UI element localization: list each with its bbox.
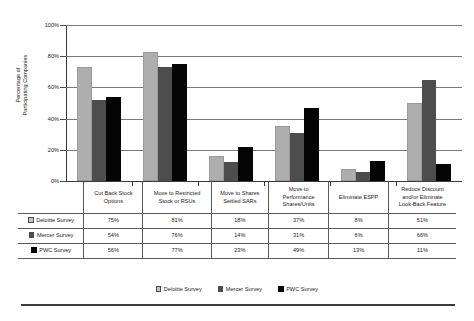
legend-item: PWC Survey <box>278 285 318 293</box>
chart-legend: Deloitte SurveyMercer SurveyPWC Survey <box>0 285 474 293</box>
legend-swatch-icon <box>278 286 284 292</box>
table-cell-value: 56% <box>84 244 143 259</box>
bar <box>304 108 319 181</box>
table-column-header: Move to SharesSettled SARs <box>211 182 268 214</box>
legend-swatch-deloitte-icon <box>28 217 34 223</box>
table-cell-value: 66% <box>388 229 456 244</box>
y-tick-label: 40% <box>31 116 59 122</box>
bar <box>370 161 385 181</box>
table-row-label: PWC Survey <box>18 244 84 259</box>
table-column-header: Eliminate ESPP <box>329 182 389 214</box>
bar <box>238 147 253 181</box>
table-cell-value: 18% <box>211 214 268 229</box>
bar <box>275 126 290 181</box>
series-name: Mercer Survey <box>37 232 73 238</box>
table-cell-value: 77% <box>143 244 211 259</box>
legend-swatch-icon <box>156 286 162 292</box>
table-cell-value: 31% <box>268 229 328 244</box>
table-cell-value: 49% <box>268 244 328 259</box>
series-name: PWC Survey <box>39 247 71 253</box>
y-tick-label: 60% <box>31 84 59 90</box>
table-corner-cell <box>18 182 84 214</box>
legend-item: Deloitte Survey <box>156 285 202 293</box>
y-tick-label: 80% <box>31 53 59 59</box>
bar <box>407 103 422 181</box>
bar <box>158 67 173 181</box>
y-tick-label: 100% <box>31 22 59 28</box>
bar <box>143 52 158 181</box>
bar-group <box>330 25 396 181</box>
bar <box>341 169 356 181</box>
table-column-header: Cut Back StockOptions <box>84 182 143 214</box>
y-tick-label: 20% <box>31 147 59 153</box>
legend-swatch-icon <box>218 286 224 292</box>
table-column-header: Move toPerformanceShares/Units <box>268 182 328 214</box>
bar <box>356 172 371 181</box>
y-axis-title-line1: Percentage of <box>15 30 22 140</box>
bottom-divider-rule <box>21 304 455 306</box>
bar-group <box>132 25 198 181</box>
bar <box>224 162 239 181</box>
table-cell-value: 81% <box>143 214 211 229</box>
bar-chart-plot: Percentage of Participating Companies 10… <box>0 0 474 186</box>
bar-group <box>198 25 264 181</box>
bar <box>92 100 107 181</box>
bar <box>422 80 437 181</box>
legend-item: Mercer Survey <box>218 285 262 293</box>
data-table: Cut Back StockOptionsMove to RestrictedS… <box>18 182 456 259</box>
table-cell-value: 14% <box>211 229 268 244</box>
table-cell-value: 11% <box>388 244 456 259</box>
y-axis-tick-labels: 100%80%60%40%20%0% <box>29 0 59 186</box>
legend-label: PWC Survey <box>286 286 318 292</box>
series-name: Deloitte Survey <box>36 217 74 223</box>
table-row: Deloitte Survey75%81%18%37%8%51% <box>18 214 456 229</box>
table-row-label: Mercer Survey <box>18 229 84 244</box>
table-cell-value: 54% <box>84 229 143 244</box>
legend-swatch-mercer-icon <box>29 232 35 238</box>
legend-swatch-pwc-icon <box>31 247 37 253</box>
legend-label: Deloitte Survey <box>164 286 202 292</box>
table-header-row: Cut Back StockOptionsMove to RestrictedS… <box>18 182 456 214</box>
table-cell-value: 76% <box>143 229 211 244</box>
table-cell-value: 23% <box>211 244 268 259</box>
table-row: PWC Survey56%77%23%49%13%11% <box>18 244 456 259</box>
table-cell-value: 13% <box>329 244 389 259</box>
bar <box>209 156 224 181</box>
table-cell-value: 8% <box>329 214 389 229</box>
table-cell-value: 51% <box>388 214 456 229</box>
bar-group <box>66 25 132 181</box>
bar <box>77 67 92 181</box>
bar <box>172 64 187 181</box>
table-row: Mercer Survey54%76%14%31%6%66% <box>18 229 456 244</box>
bar-group <box>396 25 462 181</box>
table-cell-value: 6% <box>329 229 389 244</box>
bar <box>106 97 121 181</box>
table-row-label: Deloitte Survey <box>18 214 84 229</box>
survey-comparison-figure: Percentage of Participating Companies 10… <box>0 0 474 321</box>
bar <box>290 133 305 181</box>
plot-axes-area <box>66 25 462 181</box>
table-cell-value: 37% <box>268 214 328 229</box>
legend-label: Mercer Survey <box>226 286 262 292</box>
table-column-header: Reduce Discountand/or EliminateLook-Back… <box>388 182 456 214</box>
bar <box>436 164 451 181</box>
bar-group <box>264 25 330 181</box>
table-cell-value: 75% <box>84 214 143 229</box>
table-column-header: Move to RestrictedStock or RSUs <box>143 182 211 214</box>
